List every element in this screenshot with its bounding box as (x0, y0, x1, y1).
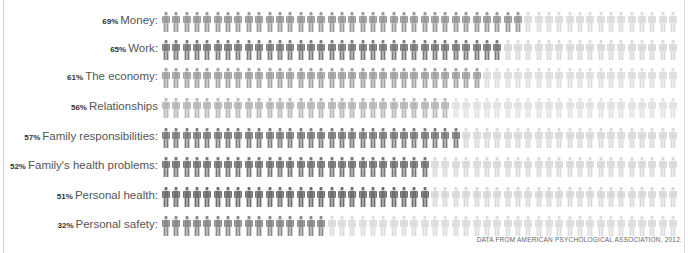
person-icon-empty (566, 98, 574, 118)
person-icon-filled (307, 12, 315, 32)
person-icon-filled (245, 40, 253, 60)
chart-row: 65%Work: (0, 39, 688, 61)
person-icon-empty (648, 187, 656, 207)
person-icon-empty (555, 12, 563, 32)
person-icon-filled (317, 40, 325, 60)
person-icon-filled (359, 157, 367, 177)
person-icon-empty (597, 98, 605, 118)
person-icon-empty (648, 40, 656, 60)
person-icon-filled (348, 157, 356, 177)
person-icon-empty (586, 128, 594, 148)
person-icon-empty (338, 216, 346, 236)
person-icon-empty (607, 40, 615, 60)
person-icon-filled (369, 98, 377, 118)
person-icon-filled (421, 128, 429, 148)
person-icon-filled (297, 216, 305, 236)
person-icon-filled (307, 216, 315, 236)
person-icon-empty (628, 187, 636, 207)
person-icon-empty (597, 40, 605, 60)
person-icon-filled (214, 68, 222, 88)
person-icon-empty (504, 187, 512, 207)
person-icon-filled (193, 40, 201, 60)
person-icon-filled (504, 12, 512, 32)
person-icon-empty (390, 216, 398, 236)
person-icon-filled (452, 12, 460, 32)
person-icon-empty (462, 157, 470, 177)
row-percentage: 32% (58, 221, 74, 230)
person-icon-empty (514, 68, 522, 88)
person-icon-empty (431, 157, 439, 177)
row-percentage: 52% (10, 162, 26, 171)
person-icon-filled (317, 12, 325, 32)
person-icon-filled (245, 187, 253, 207)
person-icon-empty (348, 216, 356, 236)
person-icon-filled (421, 157, 429, 177)
person-icon-filled (421, 68, 429, 88)
person-icon-filled (379, 12, 387, 32)
person-icon-filled (421, 98, 429, 118)
person-icon-empty (524, 40, 532, 60)
person-icon-empty (504, 216, 512, 236)
person-icon-filled (266, 216, 274, 236)
person-icon-empty (483, 187, 491, 207)
person-icon-empty (586, 98, 594, 118)
person-icon-empty (545, 12, 553, 32)
person-icon-filled (224, 68, 232, 88)
person-icon-filled (452, 40, 460, 60)
person-icon-filled (214, 40, 222, 60)
person-icon-filled (286, 187, 294, 207)
person-icon-filled (297, 40, 305, 60)
person-icon-empty (493, 187, 501, 207)
person-icon-empty (659, 187, 667, 207)
person-icon-filled (452, 128, 460, 148)
person-icon-empty (659, 40, 667, 60)
person-icon-empty (597, 187, 605, 207)
person-icon-filled (338, 68, 346, 88)
person-icon-filled (431, 68, 439, 88)
person-icon-filled (203, 40, 211, 60)
person-icon-empty (452, 216, 460, 236)
person-icon-empty (493, 216, 501, 236)
person-icon-empty (545, 187, 553, 207)
person-icon-empty (462, 187, 470, 207)
person-icon-filled (203, 98, 211, 118)
person-icon-filled (162, 157, 170, 177)
person-icon-filled (203, 187, 211, 207)
person-icon-filled (390, 12, 398, 32)
person-icon-empty (638, 128, 646, 148)
person-icon-filled (441, 128, 449, 148)
person-icon-empty (514, 40, 522, 60)
person-icon-empty (410, 216, 418, 236)
person-icon-empty (462, 128, 470, 148)
person-icon-filled (317, 128, 325, 148)
person-icon-empty (555, 128, 563, 148)
person-icon-filled (307, 128, 315, 148)
person-icon-filled (234, 216, 242, 236)
person-icon-empty (628, 128, 636, 148)
person-icon-filled (359, 128, 367, 148)
person-icon-filled (369, 187, 377, 207)
person-icon-filled (224, 40, 232, 60)
person-icon-filled (379, 128, 387, 148)
chart-row: 57%Family responsibilities: (0, 127, 688, 149)
person-icon-filled (369, 40, 377, 60)
person-icon-empty (617, 12, 625, 32)
person-icon-empty (628, 157, 636, 177)
person-icon-empty (659, 98, 667, 118)
person-icon-filled (162, 68, 170, 88)
person-icon-filled (276, 40, 284, 60)
person-icon-filled (245, 157, 253, 177)
person-icon-empty (431, 216, 439, 236)
person-icon-empty (452, 157, 460, 177)
person-icon-filled (462, 40, 470, 60)
row-category: Family responsibilities: (42, 130, 158, 142)
person-icon-filled (276, 157, 284, 177)
person-icon-empty (576, 68, 584, 88)
person-icon-empty (524, 187, 532, 207)
person-icon-filled (348, 187, 356, 207)
person-icon-filled (286, 128, 294, 148)
person-icon-filled (390, 68, 398, 88)
person-icon-empty (524, 128, 532, 148)
row-label: 61%The economy: (67, 70, 158, 82)
person-icon-filled (400, 68, 408, 88)
